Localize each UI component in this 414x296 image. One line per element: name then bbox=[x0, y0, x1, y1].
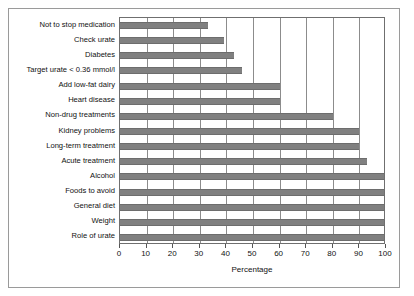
x-tick-label-80: 80 bbox=[327, 249, 336, 259]
bar bbox=[120, 173, 384, 180]
bar-row bbox=[120, 202, 384, 212]
x-tick-30 bbox=[199, 244, 200, 248]
bar bbox=[120, 83, 280, 90]
category-label: Weight bbox=[9, 217, 115, 225]
bar bbox=[120, 52, 234, 59]
x-tick-label-10: 10 bbox=[141, 249, 150, 259]
bar-row bbox=[120, 21, 384, 31]
category-label: Diabetes bbox=[9, 51, 115, 59]
plot-area bbox=[119, 17, 385, 244]
figure-frame: Not to stop medicationCheck urateDiabete… bbox=[8, 8, 400, 288]
category-label: General diet bbox=[9, 202, 115, 210]
x-tick-10 bbox=[146, 244, 147, 248]
category-axis-labels: Not to stop medicationCheck urateDiabete… bbox=[9, 17, 115, 244]
x-tick-50 bbox=[252, 244, 253, 248]
category-label: Add low-fat dairy bbox=[9, 81, 115, 89]
x-tick-80 bbox=[332, 244, 333, 248]
x-tick-60 bbox=[279, 244, 280, 248]
x-tick-label-30: 30 bbox=[194, 249, 203, 259]
bar-chart: Not to stop medicationCheck urateDiabete… bbox=[9, 9, 401, 289]
x-tick-20 bbox=[172, 244, 173, 248]
bar-row bbox=[120, 66, 384, 76]
category-label: Non-drug treatments bbox=[9, 111, 115, 119]
x-tick-90 bbox=[358, 244, 359, 248]
x-tick-label-60: 60 bbox=[274, 249, 283, 259]
x-tick-label-50: 50 bbox=[248, 249, 257, 259]
bar-row bbox=[120, 217, 384, 227]
x-tick-100 bbox=[385, 244, 386, 248]
category-label: Not to stop medication bbox=[9, 21, 115, 29]
category-label: Check urate bbox=[9, 36, 115, 44]
bar-row bbox=[120, 127, 384, 137]
category-label: Role of urate bbox=[9, 232, 115, 240]
category-label: Alcohol bbox=[9, 172, 115, 180]
category-label: Kidney problems bbox=[9, 127, 115, 135]
x-axis-ticks bbox=[119, 244, 385, 248]
x-tick-label-0: 0 bbox=[117, 249, 121, 259]
bar-row bbox=[120, 187, 384, 197]
bar-row bbox=[120, 36, 384, 46]
x-tick-70 bbox=[305, 244, 306, 248]
category-label: Heart disease bbox=[9, 96, 115, 104]
x-axis-title: Percentage bbox=[119, 265, 385, 274]
bar bbox=[120, 128, 359, 135]
bar-row bbox=[120, 81, 384, 91]
bar-series bbox=[120, 18, 384, 243]
bar-row bbox=[120, 172, 384, 182]
x-tick-label-100: 100 bbox=[378, 249, 391, 259]
bar-row bbox=[120, 96, 384, 106]
bar-row bbox=[120, 157, 384, 167]
x-tick-label-20: 20 bbox=[168, 249, 177, 259]
bar bbox=[120, 67, 242, 74]
bar bbox=[120, 98, 280, 105]
bar bbox=[120, 158, 367, 165]
x-tick-40 bbox=[225, 244, 226, 248]
bar bbox=[120, 37, 224, 44]
x-axis-tick-labels: 0102030405060708090100 bbox=[119, 249, 385, 261]
category-label: Long-term treatment bbox=[9, 142, 115, 150]
bar bbox=[120, 113, 333, 120]
bar bbox=[120, 22, 208, 29]
category-label: Acute treatment bbox=[9, 157, 115, 165]
bar bbox=[120, 143, 359, 150]
bar bbox=[120, 219, 384, 226]
bar bbox=[120, 204, 384, 211]
x-tick-0 bbox=[119, 244, 120, 248]
x-tick-label-90: 90 bbox=[354, 249, 363, 259]
bar-row bbox=[120, 232, 384, 242]
category-label: Target urate < 0.36 mmol/l bbox=[9, 66, 115, 74]
bar-row bbox=[120, 111, 384, 121]
bar bbox=[120, 234, 384, 241]
x-tick-label-70: 70 bbox=[301, 249, 310, 259]
bar-row bbox=[120, 51, 384, 61]
category-label: Foods to avoid bbox=[9, 187, 115, 195]
bar bbox=[120, 189, 384, 196]
x-tick-label-40: 40 bbox=[221, 249, 230, 259]
bar-row bbox=[120, 142, 384, 152]
